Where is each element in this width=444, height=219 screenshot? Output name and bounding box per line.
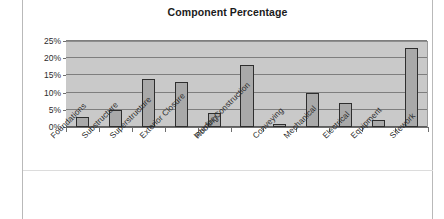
chart-container: Component Percentage 0%5%10%15%20%25% Fo… [23,0,432,219]
x-tick-mark [165,128,166,132]
x-tick-mark [231,128,232,132]
gridline-25 [66,40,427,41]
chart-title: Component Percentage [23,6,432,18]
y-tick-label: 10% [44,88,61,98]
y-tick-label: 15% [44,70,61,80]
x-tick-mark [132,128,133,132]
x-tick-mark [428,128,429,132]
y-tick-label: 5% [49,105,61,115]
x-tick-mark [99,128,100,132]
page-margin-rule-right [432,0,433,219]
y-tick-label: 20% [44,53,61,63]
y-tick-label: 25% [44,36,61,46]
